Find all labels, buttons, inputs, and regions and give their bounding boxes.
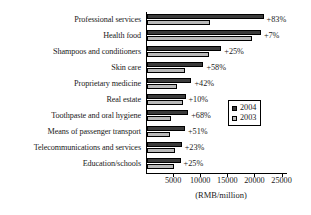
bar-group: +51% — [147, 124, 288, 140]
category-label: Means of passenger transport — [0, 124, 144, 140]
bar-2003 — [147, 148, 175, 153]
bar-value-label: +23% — [182, 141, 205, 155]
legend-label-2003: 2003 — [240, 113, 256, 123]
bar-2003 — [147, 116, 171, 121]
bar-value-label: +7% — [261, 29, 280, 43]
legend-swatch-2004-icon — [232, 106, 237, 111]
category-label: Shampoos and conditioners — [0, 44, 144, 60]
bar-value-label: +25% — [221, 45, 244, 59]
bar-2004 — [147, 142, 182, 147]
bar-group: +25% — [147, 156, 288, 172]
bar-2004 — [147, 158, 181, 163]
bar-2004 — [147, 62, 203, 67]
category-label: Education/schools — [0, 156, 144, 172]
bar-2003 — [147, 52, 209, 57]
bar-2003 — [147, 84, 177, 89]
bar-2003 — [147, 164, 174, 169]
category-label: Health food — [0, 28, 144, 44]
bar-value-label: +68% — [188, 109, 211, 123]
bar-2004 — [147, 30, 261, 35]
bar-2003 — [147, 20, 210, 25]
value-axis-line — [146, 173, 287, 174]
bar-2003 — [147, 36, 252, 41]
category-label: Skin care — [0, 60, 144, 76]
bar-group: +83% — [147, 12, 288, 28]
bar-group: +23% — [147, 140, 288, 156]
bar-value-label: +25% — [181, 157, 204, 171]
category-label: Toothpaste and oral hygiene — [0, 108, 144, 124]
bar-2004 — [147, 110, 188, 115]
bar-group: +25% — [147, 44, 288, 60]
category-label: Proprietary medicine — [0, 76, 144, 92]
value-axis-tick-labels: 500010000150002000025000 — [146, 175, 311, 187]
bar-group: +10% — [147, 92, 288, 108]
bar-2004 — [147, 78, 191, 83]
value-axis-tick-label: 20000 — [244, 175, 264, 186]
bar-2004 — [147, 126, 185, 131]
bar-value-label: +83% — [264, 13, 287, 27]
category-axis-labels: Professional servicesHealth foodShampoos… — [0, 12, 144, 172]
category-label: Real estate — [0, 92, 144, 108]
bar-2003 — [147, 132, 170, 137]
legend-item-2003: 2003 — [232, 113, 256, 123]
bar-value-label: +51% — [185, 125, 208, 139]
plot-area: +83%+7%+25%+58%+42%+10%+68%+51%+23%+25% — [146, 12, 296, 172]
bar-2003 — [147, 68, 185, 73]
bar-group: +58% — [147, 60, 288, 76]
bar-2004 — [147, 46, 221, 51]
value-axis-title: (RMB/million) — [146, 190, 296, 200]
bar-group: +42% — [147, 76, 288, 92]
bar-value-label: +10% — [186, 93, 209, 107]
value-axis-tick-label: 25000 — [271, 175, 291, 186]
category-label: Telecommunications and services — [0, 140, 144, 156]
value-axis-tick-label: 15000 — [217, 175, 237, 186]
value-axis-tick-label: 10000 — [190, 175, 210, 186]
legend-swatch-2003-icon — [232, 116, 237, 121]
chart-legend: 2004 2003 — [228, 100, 261, 126]
bar-value-label: +42% — [191, 77, 214, 91]
bar-chart: Professional servicesHealth foodShampoos… — [0, 0, 311, 215]
bar-value-label: +58% — [203, 61, 226, 75]
legend-label-2004: 2004 — [240, 103, 256, 113]
bar-2004 — [147, 14, 264, 19]
legend-item-2004: 2004 — [232, 103, 256, 113]
bar-group: +7% — [147, 28, 288, 44]
bar-2003 — [147, 100, 183, 105]
category-label: Professional services — [0, 12, 144, 28]
value-axis-tick-label: 5000 — [165, 175, 181, 186]
bar-group: +68% — [147, 108, 288, 124]
bar-2004 — [147, 94, 186, 99]
